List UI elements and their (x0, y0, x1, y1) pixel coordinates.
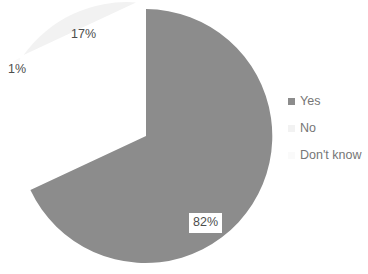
legend-swatch-icon-yes (288, 98, 295, 105)
legend-swatch-icon-dont-know (288, 152, 295, 159)
data-label-yes: 82% (189, 213, 222, 233)
chart-legend: Yes No Don't know (288, 88, 368, 169)
pie-svg (0, 0, 285, 274)
legend-item-no[interactable]: No (288, 115, 368, 142)
legend-label-dont-know: Don't know (300, 149, 361, 162)
legend-item-yes[interactable]: Yes (288, 88, 368, 115)
data-label-no: 17% (71, 28, 96, 41)
legend-swatch-icon-no (288, 125, 295, 132)
legend-label-yes: Yes (300, 95, 320, 108)
legend-label-no: No (300, 122, 316, 135)
legend-item-dont-know[interactable]: Don't know (288, 142, 368, 169)
pie-plot-area: 82% 17% 1% (0, 0, 285, 274)
pie-chart: 82% 17% 1% Yes No Don't know (0, 0, 368, 274)
pie-slice-yes[interactable] (30, 9, 272, 263)
data-label-dont-know: 1% (8, 63, 26, 76)
